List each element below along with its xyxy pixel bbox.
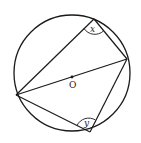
center-point	[71, 76, 74, 79]
chord-bc	[94, 19, 127, 59]
center-label: O	[69, 80, 76, 90]
diagram-canvas: O x y	[0, 0, 141, 143]
angle-label-y: y	[83, 118, 90, 128]
chord-ad	[16, 95, 90, 132]
circle	[14, 15, 130, 131]
chord-cd	[90, 59, 127, 132]
chord-ab	[16, 19, 94, 95]
circle-geometry-diagram: O x y	[0, 0, 141, 143]
angle-label-x: x	[90, 24, 95, 34]
